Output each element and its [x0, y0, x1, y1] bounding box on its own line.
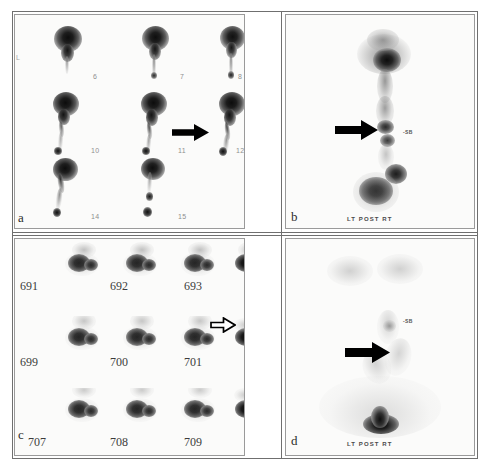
rule-vertical-left: [12, 11, 13, 459]
rule-vertical-mid: [281, 11, 282, 459]
rule-horizontal-mid2: [12, 235, 477, 236]
lesion-tag-d: -SB: [403, 318, 413, 324]
panel-letter-d: d: [291, 434, 298, 447]
frame-label-6: 6: [93, 73, 97, 80]
frame-label-11: 11: [178, 147, 186, 154]
panel-c-image: 691 692 693 694 699 700 701 702 707 708 …: [14, 238, 245, 456]
frame-label-15: 15: [178, 213, 186, 220]
scintigraphy-figure: L 6 7 8 10 11 12 14 15 a: [0, 0, 489, 472]
frame-label-692: 692: [110, 280, 128, 292]
frame-label-708: 708: [110, 436, 128, 448]
frame-label-699: 699: [20, 356, 38, 368]
arrow-solid-panel-b: [335, 120, 379, 140]
panel-b: -SB LT POST RT b: [285, 14, 475, 229]
frame-label-693: 693: [184, 280, 202, 292]
frame-694-scan: [232, 242, 245, 288]
rule-vertical-right: [477, 11, 478, 459]
frame-label-700: 700: [110, 356, 128, 368]
frame-label-701: 701: [184, 356, 202, 368]
rule-horizontal-mid: [12, 232, 477, 233]
frame-label-7: 7: [180, 73, 184, 80]
frame-label-709: 709: [184, 436, 202, 448]
frame-709-scan: [178, 388, 226, 434]
panel-a: L 6 7 8 10 11 12 14 15 a: [14, 14, 245, 229]
rule-horizontal-bottom: [12, 458, 477, 459]
panel-letter-a: a: [18, 211, 24, 224]
panel-letter-c: c: [18, 428, 24, 441]
arrow-open-panel-c: [210, 317, 236, 333]
rule-horizontal-top: [12, 11, 477, 12]
frame-label-691: 691: [20, 280, 38, 292]
side-marker-left: L: [16, 54, 20, 61]
frame-710-scan: [232, 388, 245, 434]
orientation-caption-b: LT POST RT: [347, 216, 393, 222]
frame-6-scan: [36, 20, 100, 90]
panel-a-image: L 6 7 8 10 11 12 14 15 a: [14, 14, 245, 229]
frame-label-707: 707: [28, 436, 46, 448]
panel-d: -SB LT POST RT d: [285, 238, 475, 456]
frame-699-scan: [62, 316, 110, 362]
lesion-tag-b: -SB: [403, 129, 413, 135]
panel-d-image: -SB LT POST RT d: [285, 238, 475, 456]
frame-707-scan: [62, 388, 110, 434]
panel-b-scan: [285, 14, 475, 229]
frame-708-scan: [120, 388, 168, 434]
arrow-solid-panel-d: [345, 342, 391, 363]
arrow-solid-panel-a: [172, 124, 210, 141]
panel-letter-b: b: [291, 210, 298, 223]
frame-label-10: 10: [91, 147, 99, 154]
panel-b-image: -SB LT POST RT b: [285, 14, 475, 229]
frame-label-12: 12: [236, 147, 244, 154]
panel-c: 691 692 693 694 699 700 701 702 707 708 …: [14, 238, 245, 456]
frame-label-14: 14: [91, 213, 99, 220]
frame-7-scan: [124, 20, 188, 90]
orientation-caption-d: LT POST RT: [347, 441, 393, 447]
frame-label-8: 8: [238, 73, 242, 80]
frame-691-scan: [62, 242, 110, 288]
